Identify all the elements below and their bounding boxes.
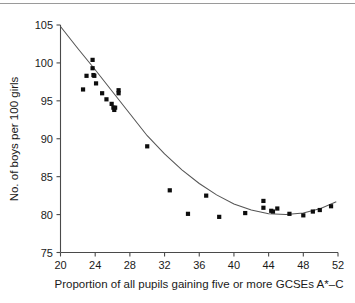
data-point (243, 211, 247, 215)
data-point (113, 106, 117, 110)
x-tick-label: 52 (332, 259, 344, 271)
y-tick-label: 80 (41, 209, 53, 221)
data-point (104, 97, 108, 101)
x-tick-label: 32 (158, 259, 170, 271)
data-point (204, 194, 208, 198)
data-point (311, 209, 315, 213)
y-tick-label: 75 (41, 247, 53, 259)
data-point (92, 74, 96, 78)
x-axis-tick-labels: 202428323640444852 (54, 259, 344, 271)
y-axis: 7580859095100105 (35, 19, 61, 259)
data-point (81, 87, 85, 91)
data-point (271, 209, 275, 213)
data-point (287, 212, 291, 216)
data-point (301, 213, 305, 217)
x-axis-ticks (61, 253, 339, 257)
y-tick-label: 90 (41, 133, 53, 145)
x-tick-label: 24 (89, 259, 101, 271)
chart-figure: 7580859095100105 202428323640444852 Prop… (0, 0, 355, 303)
x-tick-label: 44 (263, 259, 275, 271)
data-point (145, 144, 149, 148)
data-point (100, 91, 104, 95)
data-point (84, 74, 88, 78)
data-point (186, 212, 190, 216)
x-axis-title: Proportion of all pupils gaining five or… (55, 278, 344, 290)
data-point (110, 102, 114, 106)
data-point (275, 206, 279, 210)
x-axis: 202428323640444852 (54, 253, 344, 272)
x-tick-label: 36 (193, 259, 205, 271)
y-tick-label: 105 (35, 19, 53, 31)
y-axis-tick-labels: 7580859095100105 (35, 19, 53, 259)
x-tick-label: 40 (228, 259, 240, 271)
data-point (329, 204, 333, 208)
x-tick-label: 28 (124, 259, 136, 271)
y-axis-title: No. of boys per 100 girls (8, 76, 20, 201)
data-point (90, 66, 94, 70)
data-point (168, 188, 172, 192)
y-tick-label: 95 (41, 95, 53, 107)
data-point (117, 91, 121, 95)
trend-line (61, 27, 337, 215)
data-point (94, 81, 98, 85)
data-point (261, 206, 265, 210)
data-point (318, 208, 322, 212)
data-point (90, 58, 94, 62)
scatter-plot: 7580859095100105 202428323640444852 Prop… (0, 0, 355, 303)
y-axis-ticks (57, 25, 61, 253)
y-tick-label: 85 (41, 171, 53, 183)
x-tick-label: 48 (297, 259, 309, 271)
data-point (261, 199, 265, 203)
y-tick-label: 100 (35, 57, 53, 69)
data-points (81, 58, 333, 219)
data-point (217, 215, 221, 219)
x-tick-label: 20 (54, 259, 66, 271)
